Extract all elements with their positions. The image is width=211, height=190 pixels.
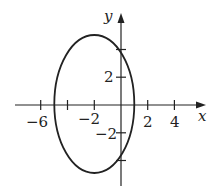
y-axis-label: y	[103, 7, 113, 25]
ellipse-graph: −6 −2 2 4 2 −2 x y	[0, 0, 211, 190]
y-axis-arrow-icon	[118, 13, 125, 23]
x-tick-label-2: 2	[143, 113, 153, 131]
x-tick-label-4: 4	[170, 113, 180, 131]
x-tick-label-neg6: −6	[26, 113, 48, 131]
y-tick-label-neg2: −2	[95, 125, 117, 143]
y-tick-label-2: 2	[104, 68, 114, 86]
x-axis-label: x	[198, 107, 207, 125]
